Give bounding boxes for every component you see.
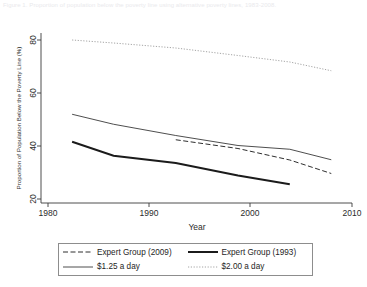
y-tick-label-40: 40 (28, 141, 38, 151)
x-tick-label-2010: 2010 (343, 208, 362, 218)
legend-label-expert-group-1993: Expert Group (1993) (222, 248, 297, 257)
legend-item-1-25-a-day[interactable]: $1.25 a day (61, 262, 186, 271)
legend-item-expert-group-2009[interactable]: Expert Group (2009) (61, 248, 186, 257)
y-axis-title: Proportion of Population Below the Pover… (15, 47, 22, 190)
legend-swatch-solid-thin-icon (63, 263, 93, 271)
legend-swatch-solid-thick-icon (188, 248, 218, 256)
legend-item-expert-group-1993[interactable]: Expert Group (1993) (186, 248, 311, 257)
legend-label-1-25-a-day: $1.25 a day (97, 262, 140, 271)
legend-swatch-dotted-icon (188, 263, 218, 271)
x-axis-title: Year (188, 222, 205, 232)
series-line-expert-group-1993 (72, 142, 290, 185)
series-line-2-00-a-day (72, 40, 331, 71)
y-tick-label-80: 80 (28, 35, 38, 45)
chart-screenshot: Figure 1. Proportion of population below… (0, 0, 367, 287)
chart-legend: Expert Group (2009) Expert Group (1993) … (58, 243, 313, 276)
y-tick-label-60: 60 (28, 88, 38, 98)
y-tick-label-20: 20 (28, 194, 38, 204)
x-tick-label-2000: 2000 (241, 208, 260, 218)
legend-swatch-dashed-icon (63, 248, 93, 256)
series-line-1-25-a-day (72, 114, 331, 160)
x-tick-label-1980: 1980 (39, 208, 58, 218)
legend-label-expert-group-2009: Expert Group (2009) (97, 248, 172, 257)
figure-area: 80 60 40 20 Proportion of Population Bel… (0, 11, 367, 287)
legend-label-2-00-a-day: $2.00 a day (222, 262, 265, 271)
figure-caption: Figure 1. Proportion of population below… (0, 0, 367, 11)
x-tick-label-1990: 1990 (140, 208, 159, 218)
legend-item-2-00-a-day[interactable]: $2.00 a day (186, 262, 311, 271)
